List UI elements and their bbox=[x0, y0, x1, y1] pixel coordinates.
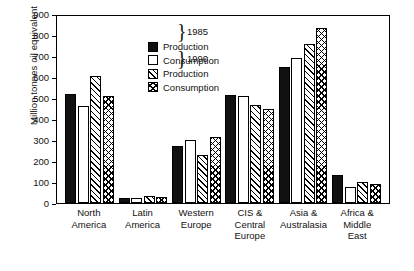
tick-mark bbox=[52, 36, 56, 37]
y-axis-tick-label: 400 bbox=[33, 114, 49, 125]
y-axis-tick-label: 200 bbox=[33, 156, 49, 167]
legend-label: Consumption bbox=[163, 82, 219, 93]
tick-mark bbox=[52, 15, 56, 16]
legend-swatch bbox=[148, 69, 158, 79]
y-axis-tick-label: 900 bbox=[33, 9, 49, 20]
y-axis-tick-label: 0 bbox=[44, 198, 49, 209]
x-axis-category-label: Asia &Australasia bbox=[277, 207, 331, 242]
tick-mark bbox=[52, 162, 56, 163]
bar-group bbox=[223, 16, 276, 203]
legend-swatch bbox=[148, 55, 158, 65]
x-axis-category-label: CIS &CentralEurope bbox=[223, 207, 277, 242]
tick-mark bbox=[52, 78, 56, 79]
y-axis-tick-label: 100 bbox=[33, 177, 49, 188]
y-axis-tick-label: 500 bbox=[33, 93, 49, 104]
x-axis-label-line: Middle bbox=[330, 219, 384, 231]
bar bbox=[78, 106, 89, 203]
x-axis-label-line: Europe bbox=[169, 219, 223, 231]
bar bbox=[65, 94, 76, 203]
x-axis-category-label: Africa &MiddleEast bbox=[330, 207, 384, 242]
x-axis-category-label: LatinAmerica bbox=[116, 207, 170, 242]
legend-label: Production bbox=[163, 68, 208, 79]
bar bbox=[316, 28, 327, 203]
bar bbox=[210, 137, 221, 203]
x-axis-label-line: Latin bbox=[116, 207, 170, 219]
tick-mark bbox=[52, 141, 56, 142]
bar bbox=[345, 187, 356, 203]
legend-brace-1985: } bbox=[177, 21, 187, 41]
bar bbox=[357, 182, 368, 203]
legend-row: Production bbox=[148, 67, 219, 81]
y-axis-tick-label: 700 bbox=[33, 51, 49, 62]
bar bbox=[131, 198, 142, 203]
legend-swatch bbox=[148, 82, 158, 92]
bar bbox=[370, 184, 381, 203]
bar bbox=[250, 105, 261, 203]
x-axis-label-line: America bbox=[62, 219, 116, 231]
bar bbox=[185, 140, 196, 203]
legend-year-1985: 1985 bbox=[187, 26, 208, 37]
x-axis-label-line: CIS & bbox=[223, 207, 277, 219]
y-axis-tick-label: 600 bbox=[33, 72, 49, 83]
bar-group bbox=[330, 16, 383, 203]
bar-groups bbox=[57, 16, 389, 203]
bar bbox=[291, 58, 302, 203]
x-axis-label-line: Europe bbox=[223, 230, 277, 242]
x-axis-label-line: North bbox=[62, 207, 116, 219]
bar bbox=[156, 197, 167, 203]
x-axis-labels: NorthAmericaLatinAmericaWesternEuropeCIS… bbox=[56, 207, 390, 242]
bar bbox=[90, 76, 101, 203]
tick-mark bbox=[52, 204, 56, 205]
bar bbox=[279, 67, 290, 204]
plot-area bbox=[56, 15, 390, 204]
x-axis-label-line: America bbox=[116, 219, 170, 231]
bar bbox=[263, 109, 274, 204]
bar bbox=[332, 175, 343, 203]
bar bbox=[103, 96, 114, 203]
x-axis-category-label: WesternEurope bbox=[169, 207, 223, 242]
tick-mark bbox=[52, 120, 56, 121]
bar-chart: Million tonnes oil equivalent 9008007006… bbox=[0, 0, 414, 271]
tick-mark bbox=[52, 57, 56, 58]
x-axis-category-label: NorthAmerica bbox=[62, 207, 116, 242]
legend-year-1990: 1990 bbox=[187, 53, 208, 64]
bar-group bbox=[63, 16, 116, 203]
x-axis-label-line: Asia & bbox=[277, 207, 331, 219]
tick-mark bbox=[52, 99, 56, 100]
y-axis-tick-label: 300 bbox=[33, 135, 49, 146]
x-axis-label-line: Western bbox=[169, 207, 223, 219]
bar bbox=[238, 96, 249, 203]
bar bbox=[172, 146, 183, 203]
bar-group bbox=[276, 16, 329, 203]
bar bbox=[144, 196, 155, 203]
bar bbox=[197, 155, 208, 203]
bar bbox=[304, 44, 315, 203]
y-axis-tick-label: 800 bbox=[33, 30, 49, 41]
x-axis-label-line: Central bbox=[223, 219, 277, 231]
bar bbox=[119, 198, 130, 203]
x-axis-label-line: Australasia bbox=[277, 219, 331, 231]
tick-mark bbox=[52, 183, 56, 184]
legend-brace-1990: } bbox=[177, 48, 187, 68]
legend-swatch bbox=[148, 42, 158, 52]
bar bbox=[225, 95, 236, 203]
legend-row: Consumption bbox=[148, 81, 219, 95]
x-axis-label-line: Africa & bbox=[330, 207, 384, 219]
x-axis-label-line: East bbox=[330, 230, 384, 242]
